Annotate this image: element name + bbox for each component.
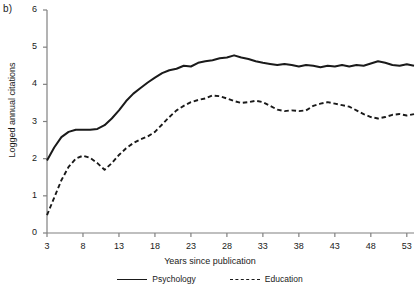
y-tick-label: 6 — [17, 4, 37, 14]
legend-label-psychology: Psychology — [152, 274, 195, 284]
x-tick-label: 33 — [248, 241, 278, 251]
y-tick-label: 1 — [17, 190, 37, 200]
legend-label-education: Education — [265, 274, 303, 284]
x-tick-label: 48 — [356, 241, 386, 251]
figure-panel: b) Logged annual citations Years since p… — [0, 0, 420, 292]
series-line-psychology — [47, 55, 414, 160]
legend-key-dashed-icon — [230, 279, 260, 280]
y-tick-label: 5 — [17, 41, 37, 51]
legend-item-psychology: Psychology — [117, 274, 195, 284]
x-tick-label: 28 — [212, 241, 242, 251]
x-tick-label: 38 — [284, 241, 314, 251]
x-tick-label: 23 — [176, 241, 206, 251]
x-tick-label: 13 — [104, 241, 134, 251]
y-tick-label: 2 — [17, 153, 37, 163]
chart-legend: Psychology Education — [0, 274, 420, 284]
y-tick-label: 4 — [17, 78, 37, 88]
x-tick-label: 3 — [32, 241, 62, 251]
legend-item-education: Education — [230, 274, 303, 284]
x-tick-label: 8 — [68, 241, 98, 251]
legend-key-solid-icon — [117, 279, 147, 280]
y-tick-label: 0 — [17, 227, 37, 237]
x-tick-label: 53 — [392, 241, 420, 251]
x-tick-label: 43 — [320, 241, 350, 251]
y-tick-label: 3 — [17, 116, 37, 126]
series-line-education — [47, 95, 414, 215]
x-tick-label: 18 — [140, 241, 170, 251]
